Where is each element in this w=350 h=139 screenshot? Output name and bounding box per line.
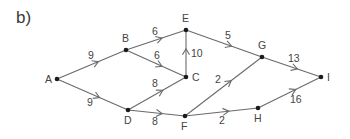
node-g — [260, 55, 265, 60]
edge-weight: 13 — [288, 52, 300, 64]
network-diagram: 996610885221316 ABECDFGHI — [0, 0, 350, 139]
edge-weight: 6 — [154, 49, 160, 61]
node-label: B — [122, 32, 129, 44]
node-h — [256, 106, 261, 111]
node-i — [319, 75, 324, 80]
edge-weight: 2 — [215, 73, 221, 85]
node-label: A — [45, 73, 52, 85]
edge-weight: 2 — [219, 114, 225, 126]
node-label: G — [258, 39, 266, 51]
edge-weight: 16 — [290, 93, 302, 105]
node-c — [184, 75, 189, 80]
edge-weight: 5 — [225, 29, 231, 41]
node-label: I — [327, 71, 330, 83]
edge-weight: 9 — [87, 96, 93, 108]
node-label: D — [124, 114, 132, 126]
edge-weight: 10 — [191, 47, 203, 59]
edge-f-g — [185, 57, 262, 116]
node-d — [126, 108, 131, 113]
node-f — [183, 114, 188, 119]
node-b — [124, 48, 129, 53]
node-label: H — [254, 112, 262, 124]
edge-weight: 9 — [88, 49, 94, 61]
edges-group — [57, 30, 321, 116]
edge-weight: 6 — [152, 25, 158, 37]
node-label: F — [181, 120, 187, 132]
edge-weight: 8 — [152, 77, 158, 89]
node-e — [184, 28, 189, 33]
node-label: E — [182, 12, 189, 24]
edge-weight: 8 — [152, 115, 158, 127]
node-a — [55, 77, 60, 82]
node-label: C — [192, 71, 200, 83]
